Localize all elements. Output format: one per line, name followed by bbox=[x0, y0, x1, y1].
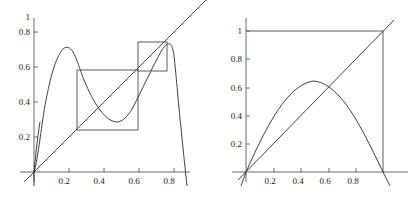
unimodal-map-curve bbox=[246, 81, 383, 172]
x-tick-label-0.8-left: 0.8 bbox=[163, 176, 175, 186]
chart-panel-right: 0.2 0.4 0.6 0.8 1 0.2 0.4 0.6 0.8 bbox=[208, 0, 416, 198]
x-tick-label-0.4-left: 0.4 bbox=[93, 176, 105, 186]
y-tick-label-0.4-left: 0.4 bbox=[19, 97, 31, 107]
x-tick-label-0.6-right: 0.6 bbox=[319, 176, 331, 186]
y-tick-label-0.4-right: 0.4 bbox=[231, 111, 243, 121]
identity-diagonal-right bbox=[238, 20, 394, 180]
right-plot-svg: 0.2 0.4 0.6 0.8 1 0.2 0.4 0.6 0.8 bbox=[208, 0, 416, 198]
identity-diagonal-left bbox=[24, 0, 208, 182]
x-tick-label-0.8-right: 0.8 bbox=[347, 176, 359, 186]
y-tick-label-0.6-left: 0.6 bbox=[19, 62, 31, 72]
chart-panel-left: 0.2 0.4 0.6 0.8 1 0.2 0.4 0.6 0.8 bbox=[0, 0, 208, 198]
x-tick-label-0.2-right: 0.2 bbox=[264, 176, 275, 186]
x-tick-label-0.6-left: 0.6 bbox=[128, 176, 140, 186]
y-tick-label-0.2-right: 0.2 bbox=[231, 139, 242, 149]
y-tick-label-0.8-right: 0.8 bbox=[231, 54, 243, 64]
y-tick-label-1-right: 1 bbox=[238, 26, 243, 36]
y-tick-label-0.8-left: 0.8 bbox=[19, 27, 31, 37]
x-tick-label-0.4-right: 0.4 bbox=[292, 176, 304, 186]
y-tick-label-0.6-right: 0.6 bbox=[231, 83, 243, 93]
y-tick-label-1-left: 1 bbox=[26, 12, 31, 22]
inner-renormalization-box bbox=[138, 42, 167, 71]
iterated-map-left-limb bbox=[34, 122, 40, 186]
curve-right-stub-right bbox=[383, 172, 390, 186]
left-plot-svg: 0.2 0.4 0.6 0.8 1 0.2 0.4 0.6 0.8 bbox=[0, 0, 208, 198]
figure-canvas: 0.2 0.4 0.6 0.8 1 0.2 0.4 0.6 0.8 bbox=[0, 0, 416, 198]
x-tick-label-0.2-left: 0.2 bbox=[58, 176, 69, 186]
y-tick-label-0.2-left: 0.2 bbox=[19, 132, 30, 142]
outer-renormalization-box bbox=[77, 70, 138, 130]
iterated-map-curve bbox=[34, 44, 187, 186]
